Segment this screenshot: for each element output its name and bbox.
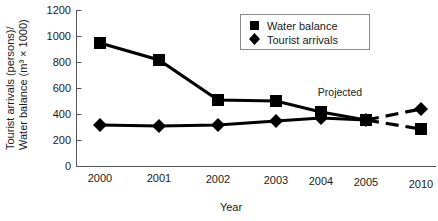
series-tourist-arrivals: [93, 102, 428, 133]
legend-label: Water balance: [267, 20, 338, 32]
y-tick-label: 200: [53, 134, 71, 146]
x-tick-label: 2002: [206, 173, 230, 185]
data-point-marker: [153, 54, 165, 66]
y-tick-label: 0: [65, 160, 71, 172]
projected-annotation: Projected: [318, 86, 363, 98]
data-point-marker: [414, 102, 428, 116]
data-point-marker: [211, 118, 225, 132]
x-tick-label: 2005: [354, 176, 378, 188]
y-tick-marks: [77, 11, 82, 167]
y-tick-label: 800: [53, 56, 71, 68]
line-chart: Tourist arrivals (persons)/ Water balanc…: [0, 0, 438, 221]
data-point-marker: [94, 37, 106, 49]
x-tick-label: 2003: [264, 174, 288, 186]
x-axis-title: Year: [220, 201, 243, 213]
square-marker-icon: [250, 21, 259, 30]
y-tick-label: 1200: [47, 4, 71, 16]
x-tick-labels: 2000 2001 2002 2003 2004 2005 2010: [88, 172, 433, 190]
x-tick-label: 2001: [147, 172, 171, 184]
y-tick-label: 600: [53, 82, 71, 94]
data-point-marker: [270, 95, 282, 107]
x-tick-label: 2010: [409, 178, 433, 190]
y-axis-title-line2: Water balance (m³ × 1000): [17, 19, 29, 150]
x-tick-label: 2004: [309, 175, 333, 187]
data-point-marker: [152, 119, 166, 133]
y-axis-title: Tourist arrivals (persons)/ Water balanc…: [4, 19, 29, 150]
series-water-balance: [94, 37, 427, 135]
chart-container: Tourist arrivals (persons)/ Water balanc…: [0, 0, 438, 221]
y-axis-title-line1: Tourist arrivals (persons)/: [4, 26, 16, 150]
y-tick-label: 1000: [47, 30, 71, 42]
y-tick-label: 400: [53, 108, 71, 120]
legend-label: Tourist arrivals: [267, 34, 338, 46]
water-balance-projected-line: [366, 120, 421, 129]
legend: Water balance Tourist arrivals: [241, 15, 370, 50]
data-point-marker: [212, 94, 224, 106]
data-point-marker: [269, 114, 283, 128]
y-tick-labels: 1200 1000 800 600 400 200 0: [47, 4, 71, 172]
data-point-marker: [415, 123, 427, 135]
data-point-marker: [93, 118, 107, 132]
tourist-arrivals-projected-line: [366, 109, 421, 120]
x-tick-label: 2000: [88, 172, 112, 184]
